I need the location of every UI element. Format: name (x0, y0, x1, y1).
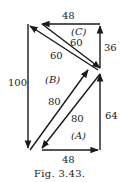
label-diag-lower-inner: 80 (71, 113, 84, 124)
label-right-lower: 64 (105, 110, 118, 121)
label-diag-upper-inner: 60 (70, 37, 83, 48)
label-top: 48 (62, 10, 75, 21)
label-region-c: (C) (71, 26, 87, 37)
label-region-a: (A) (71, 130, 86, 141)
force-triangle-diagram: 48 (C) 60 36 60 100 (B) 80 80 64 (A) 48 … (0, 0, 120, 182)
label-diag-upper-outer: 60 (50, 50, 63, 61)
label-bottom: 48 (62, 154, 75, 165)
label-left: 100 (8, 77, 27, 88)
vector-diag-upper-outer-60 (30, 26, 98, 70)
label-diag-lower-outer: 80 (48, 96, 61, 107)
label-right-upper: 36 (104, 42, 117, 53)
figure-caption: Fig. 3.43. (34, 168, 85, 179)
label-region-b: (B) (45, 74, 60, 85)
